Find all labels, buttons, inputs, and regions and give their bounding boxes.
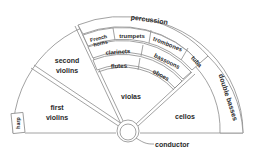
conductor-podium (120, 124, 136, 140)
label-cellos: cellos (175, 113, 195, 120)
conductor-pointer (136, 138, 154, 144)
label-trumpets: trumpets (119, 33, 145, 39)
orchestra-diagram: percussion French horns trumpets trombon… (0, 0, 257, 156)
label-first-violins-1: first (50, 104, 64, 111)
label-violas: violas (121, 93, 141, 100)
label-second-violins-2: violins (56, 67, 78, 74)
label-harp: harp (15, 117, 21, 128)
label-second-violins-1: second (55, 57, 80, 64)
label-flutes: flutes (111, 63, 128, 70)
label-first-violins-2: violins (46, 114, 68, 121)
seating-chart: percussion French horns trumpets trombon… (0, 0, 257, 156)
double-basses-region (195, 56, 243, 133)
label-conductor: conductor (155, 141, 189, 148)
violins-divider (31, 65, 122, 127)
